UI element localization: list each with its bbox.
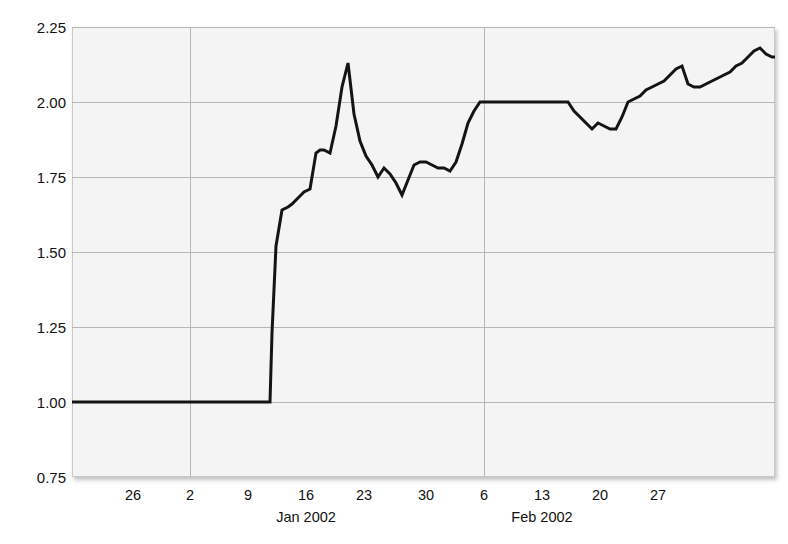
chart-stage: 0.751.001.251.501.752.002.25 26291623306…	[0, 0, 788, 544]
x-axis-tick-label: 2	[160, 487, 220, 503]
y-axis-tick-label: 1.75	[6, 169, 66, 186]
x-axis-tick-label: 27	[628, 487, 688, 503]
x-axis-period-label: Feb 2002	[472, 509, 612, 525]
y-axis-tick-label: 2.00	[6, 94, 66, 111]
gridlines	[72, 27, 775, 477]
series-line	[72, 48, 775, 402]
x-axis-tick-label: 20	[570, 487, 630, 503]
x-axis-period-label: Jan 2002	[236, 509, 376, 525]
data-series	[72, 48, 775, 402]
x-axis-tick-label: 26	[103, 487, 163, 503]
x-axis-tick-label: 13	[512, 487, 572, 503]
y-axis-tick-label: 2.25	[6, 19, 66, 36]
y-axis-tick-label: 0.75	[6, 469, 66, 486]
x-axis-tick-label: 9	[218, 487, 278, 503]
y-axis-tick-label: 1.00	[6, 394, 66, 411]
x-axis-tick-label: 30	[396, 487, 456, 503]
y-axis-tick-label: 1.50	[6, 244, 66, 261]
x-axis-tick-label: 16	[276, 487, 336, 503]
line-chart-plot	[72, 27, 775, 477]
x-axis-tick-label: 23	[334, 487, 394, 503]
x-axis-tick-label: 6	[454, 487, 514, 503]
chart-title	[0, 0, 788, 3]
y-axis-tick-label: 1.25	[6, 319, 66, 336]
